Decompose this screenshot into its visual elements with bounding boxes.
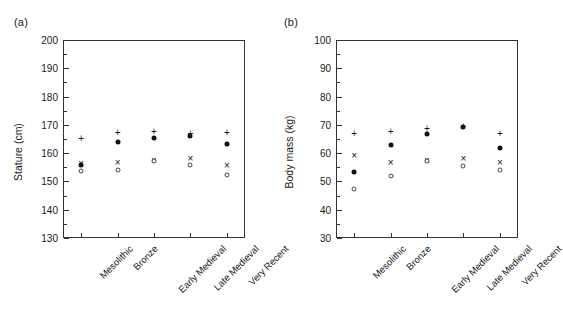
data-point-filled-circle bbox=[188, 133, 193, 138]
x-tick bbox=[118, 233, 119, 238]
x-tick-label-mesolithic: Mesolithic bbox=[371, 243, 409, 281]
x-tick bbox=[427, 233, 428, 238]
data-point-cross: × bbox=[388, 158, 394, 168]
data-point-filled-circle bbox=[115, 140, 120, 145]
data-point-filled-circle bbox=[388, 143, 393, 148]
x-tick bbox=[227, 233, 228, 238]
y-tick-label: 170 bbox=[0, 119, 58, 130]
y-tick-label: 40 bbox=[270, 204, 331, 215]
y-tick-major bbox=[64, 153, 69, 154]
x-tick bbox=[500, 233, 501, 238]
data-point-plus: + bbox=[351, 129, 357, 139]
data-point-open-circle bbox=[188, 163, 193, 168]
y-tick-label: 140 bbox=[0, 204, 58, 215]
data-point-open-circle bbox=[497, 167, 502, 172]
x-tick bbox=[391, 233, 392, 238]
data-point-cross: × bbox=[78, 159, 84, 169]
panel-a: (a) Stature (cm) 13014015016017018019020… bbox=[0, 0, 270, 316]
y-tick-minor bbox=[64, 54, 67, 55]
data-point-filled-circle bbox=[152, 136, 157, 141]
panel-b: (b) Body mass (kg) 30405060708090100Meso… bbox=[270, 0, 540, 316]
y-tick-label: 200 bbox=[0, 35, 58, 46]
y-tick-label: 90 bbox=[270, 63, 331, 74]
y-tick-label: 130 bbox=[0, 233, 58, 244]
panel-label-a: (a) bbox=[14, 16, 28, 28]
data-point-open-circle bbox=[461, 163, 466, 168]
data-point-open-circle bbox=[152, 159, 157, 164]
x-tick bbox=[81, 233, 82, 238]
y-tick-major bbox=[337, 181, 342, 182]
x-tick-label-bronze: Bronze bbox=[403, 243, 432, 272]
data-point-cross: × bbox=[224, 161, 230, 171]
y-tick-minor bbox=[64, 224, 67, 225]
y-tick-minor bbox=[337, 54, 340, 55]
y-tick-label: 150 bbox=[0, 176, 58, 187]
x-tick-label-mesolithic: Mesolithic bbox=[98, 243, 136, 281]
y-tick-minor bbox=[337, 167, 340, 168]
y-tick-minor bbox=[337, 224, 340, 225]
data-point-plus: + bbox=[497, 129, 503, 139]
y-tick-minor bbox=[64, 111, 67, 112]
data-point-open-circle bbox=[425, 159, 430, 164]
y-tick-major bbox=[64, 97, 69, 98]
data-point-open-circle bbox=[115, 167, 120, 172]
data-point-plus: + bbox=[78, 134, 84, 144]
y-tick-label: 180 bbox=[0, 91, 58, 102]
y-tick-minor bbox=[64, 167, 67, 168]
y-tick-label: 70 bbox=[270, 119, 331, 130]
data-point-open-circle bbox=[352, 187, 357, 192]
data-point-filled-circle bbox=[224, 141, 229, 146]
data-point-filled-circle bbox=[497, 145, 502, 150]
y-tick-major bbox=[337, 238, 342, 239]
data-point-open-circle bbox=[224, 173, 229, 178]
plot-area-b bbox=[336, 40, 518, 238]
y-tick-major bbox=[337, 153, 342, 154]
panel-label-b: (b) bbox=[284, 16, 298, 28]
x-tick bbox=[154, 233, 155, 238]
y-tick-minor bbox=[337, 139, 340, 140]
data-point-plus: + bbox=[224, 128, 230, 138]
y-tick-major bbox=[64, 68, 69, 69]
y-tick-major bbox=[64, 238, 69, 239]
y-tick-major bbox=[64, 181, 69, 182]
data-point-cross: × bbox=[460, 154, 466, 164]
data-point-cross: × bbox=[351, 151, 357, 161]
y-tick-label: 100 bbox=[270, 35, 331, 46]
x-tick bbox=[190, 233, 191, 238]
data-point-plus: + bbox=[115, 128, 121, 138]
y-tick-major bbox=[337, 68, 342, 69]
y-tick-label: 50 bbox=[270, 176, 331, 187]
x-tick bbox=[354, 233, 355, 238]
x-tick bbox=[463, 233, 464, 238]
x-tick-label-bronze: Bronze bbox=[130, 243, 159, 272]
data-point-open-circle bbox=[388, 173, 393, 178]
data-point-open-circle bbox=[79, 169, 84, 174]
data-point-filled-circle bbox=[461, 125, 466, 130]
y-tick-minor bbox=[337, 82, 340, 83]
y-tick-label: 30 bbox=[270, 233, 331, 244]
y-tick-minor bbox=[64, 139, 67, 140]
y-tick-major bbox=[64, 125, 69, 126]
y-tick-label: 160 bbox=[0, 148, 58, 159]
y-tick-minor bbox=[337, 196, 340, 197]
y-tick-major bbox=[337, 210, 342, 211]
y-tick-minor bbox=[64, 196, 67, 197]
y-tick-major bbox=[64, 210, 69, 211]
y-tick-major bbox=[337, 125, 342, 126]
y-tick-major bbox=[337, 40, 342, 41]
data-point-filled-circle bbox=[425, 132, 430, 137]
y-tick-label: 60 bbox=[270, 148, 331, 159]
y-tick-major bbox=[64, 40, 69, 41]
y-tick-label: 190 bbox=[0, 63, 58, 74]
y-tick-minor bbox=[64, 82, 67, 83]
y-tick-major bbox=[337, 97, 342, 98]
data-point-plus: + bbox=[388, 127, 394, 137]
y-tick-label: 80 bbox=[270, 91, 331, 102]
data-point-filled-circle bbox=[352, 170, 357, 175]
y-tick-minor bbox=[337, 111, 340, 112]
